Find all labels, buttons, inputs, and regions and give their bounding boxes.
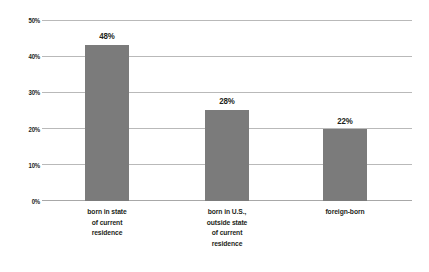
x-axis-category-label: born in U.S., outside state of current r… <box>182 207 272 249</box>
y-axis-tick-label: 40% <box>11 53 40 60</box>
bar[interactable] <box>205 110 249 201</box>
bar-group: 28% <box>205 20 249 201</box>
x-axis-category-label: foreign-born <box>300 207 390 218</box>
y-axis-tick-label: 30% <box>11 89 40 96</box>
bar-group: 48% <box>85 20 129 201</box>
y-axis-tick-label: 20% <box>11 125 40 132</box>
y-axis-tick-label: 10% <box>11 161 40 168</box>
bar[interactable] <box>85 45 129 201</box>
x-axis-category-line: of current <box>182 228 272 239</box>
y-axis-tick-label: 0% <box>11 198 40 205</box>
x-axis-category-line: born in U.S., <box>182 207 272 218</box>
x-axis-category-label: born in state of current residence <box>62 207 152 239</box>
x-axis-category-line: foreign-born <box>300 207 390 218</box>
bar-value-label: 28% <box>219 96 234 106</box>
plot-area: 48% 28% 22% <box>42 20 412 201</box>
x-axis-category-line: residence <box>182 239 272 250</box>
y-axis: 50% 40% 30% 20% 10% 0% <box>0 20 40 201</box>
x-axis-category-line: of current <box>62 218 152 229</box>
bar-value-label: 22% <box>337 116 352 126</box>
x-axis: born in state of current residence born … <box>42 207 412 267</box>
x-axis-category-line: born in state <box>62 207 152 218</box>
bar[interactable] <box>323 129 367 201</box>
bar-chart: 50% 40% 30% 20% 10% 0% 48% 28% 22% <box>0 0 429 272</box>
bar-group: 22% <box>323 20 367 201</box>
bar-value-label: 48% <box>99 31 114 41</box>
y-axis-tick-label: 50% <box>11 17 40 24</box>
x-axis-category-line: residence <box>62 228 152 239</box>
x-axis-category-line: outside state <box>182 218 272 229</box>
